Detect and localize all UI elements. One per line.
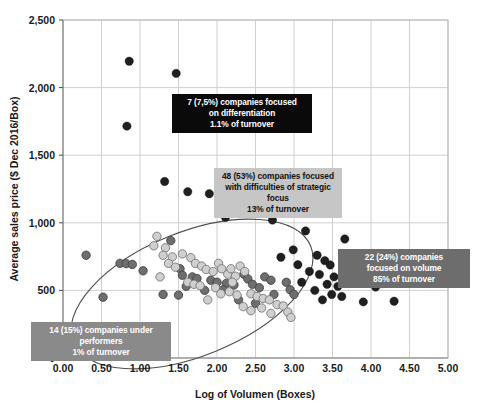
data-point-mid-cluster-light: [287, 313, 295, 321]
annotation-line: 48 (53%) companies focused: [219, 171, 337, 182]
data-point-mid-cluster-light: [247, 306, 255, 314]
data-point-differentiation-high-price: [160, 177, 168, 185]
data-point-volume-focused: [311, 286, 319, 294]
x-tick-label: 0.00: [53, 362, 74, 374]
annotation-strategic-focus: 48 (53%) companies focusedwith difficult…: [214, 168, 342, 218]
data-point-mid-cluster-light: [150, 242, 158, 250]
data-point-mid-cluster-light: [228, 278, 236, 286]
data-point-mid-cluster-light: [178, 250, 186, 258]
data-point-volume-focused: [359, 298, 367, 306]
y-tick-label: 1,000: [29, 217, 55, 229]
data-point-differentiation-high-price: [205, 190, 213, 198]
x-axis-title: Log of Volumen (Boxes): [195, 388, 315, 400]
data-point-mid-cluster-light: [233, 291, 241, 299]
annotation-line: 22 (24%) companies: [343, 252, 465, 263]
data-point-strategic-focus-difficulties: [82, 251, 90, 259]
data-point-volume-focused: [294, 261, 302, 269]
data-point-strategic-focus-difficulties: [267, 276, 275, 284]
data-point-strategic-focus-difficulties: [178, 271, 186, 279]
x-tick-label: 2.50: [245, 362, 266, 374]
data-point-mid-cluster-light: [241, 267, 249, 275]
annotation-volume: 22 (24%) companiesfocused on volume85% o…: [338, 249, 470, 288]
data-point-volume-focused: [323, 280, 331, 288]
data-point-volume-focused: [341, 235, 349, 243]
annotation-line: on differentiation: [177, 108, 307, 119]
x-axis-tick-labels: 0.000.501.001.502.002.503.003.504.004.50…: [53, 362, 459, 374]
annotation-line: 13% of turnover: [219, 204, 337, 215]
x-tick-label: 4.50: [399, 362, 420, 374]
annotation-line: with difficulties of strategic: [219, 182, 337, 193]
x-tick-label: 2.00: [207, 362, 228, 374]
x-tick-label: 3.50: [322, 362, 343, 374]
data-point-differentiation-high-price: [184, 188, 192, 196]
annotation-differentiation: 7 (7,5%) companies focusedon differentia…: [172, 94, 312, 133]
x-tick-label: 3.00: [284, 362, 305, 374]
data-point-strategic-focus-difficulties: [167, 236, 175, 244]
data-point-volume-focused: [326, 261, 334, 269]
data-point-mid-cluster-light: [239, 302, 247, 310]
data-point-strategic-focus-difficulties: [255, 283, 263, 291]
annotation-under-performers: 14 (15%) companies underperformers1% of …: [31, 322, 171, 361]
data-point-mid-cluster-light: [153, 232, 161, 240]
annotation-line: focused on volume: [343, 263, 465, 274]
data-point-volume-focused: [313, 251, 321, 259]
data-point-mid-cluster-light: [225, 288, 233, 296]
y-tick-label: 500: [37, 284, 55, 296]
annotation-line: 85% of turnover: [343, 274, 465, 285]
y-tick-label: 1,500: [29, 149, 55, 161]
x-tick-label: 5.00: [438, 362, 459, 374]
data-point-volume-focused: [315, 270, 323, 278]
x-tick-label: 4.00: [361, 362, 382, 374]
data-point-mid-cluster-light: [209, 267, 217, 275]
annotation-line: 1.1% of turnover: [177, 119, 307, 130]
data-point-mid-cluster-light: [257, 304, 265, 312]
x-tick-label: 0.50: [91, 362, 112, 374]
y-tick-label: 2,500: [29, 14, 55, 26]
annotation-line: 1% of turnover: [36, 347, 166, 358]
data-point-volume-focused: [330, 273, 338, 281]
data-point-differentiation-high-price: [123, 122, 131, 130]
data-point-volume-focused: [301, 227, 309, 235]
data-point-volume-focused: [277, 253, 285, 261]
data-point-volume-focused: [318, 296, 326, 304]
data-point-mid-cluster-light: [267, 309, 275, 317]
x-tick-label: 1.50: [168, 362, 189, 374]
data-point-mid-cluster-light: [265, 296, 273, 304]
data-point-volume-focused: [305, 267, 313, 275]
data-point-volume-focused: [390, 297, 398, 305]
data-point-mid-cluster-light: [204, 296, 212, 304]
y-tick-label: 2,000: [29, 82, 55, 94]
annotation-line: focus: [219, 193, 337, 204]
data-point-mid-cluster-light: [171, 263, 179, 271]
data-point-mid-cluster-light: [196, 281, 204, 289]
data-point-mid-cluster-light: [159, 251, 167, 259]
data-point-strategic-focus-difficulties: [290, 290, 298, 298]
data-point-differentiation-high-price: [125, 57, 133, 65]
data-point-volume-focused: [328, 290, 336, 298]
y-axis-tick-labels: 05001,0001,5002,0002,500: [29, 14, 55, 364]
data-point-mid-cluster-light: [217, 290, 225, 298]
annotation-line: performers: [36, 336, 166, 347]
annotation-line: 7 (7,5%) companies focused: [177, 97, 307, 108]
data-point-strategic-focus-difficulties: [99, 293, 107, 301]
data-point-differentiation-high-price: [172, 69, 180, 77]
footer-strip: [0, 404, 477, 415]
data-point-volume-focused: [298, 278, 306, 286]
x-tick-label: 1.00: [130, 362, 151, 374]
data-point-volume-focused: [289, 246, 297, 254]
annotation-line: 14 (15%) companies under: [36, 325, 166, 336]
y-axis-title: Average sales price ($ Dec 2016/Box): [8, 96, 20, 281]
data-point-strategic-focus-difficulties: [159, 290, 167, 298]
data-point-strategic-focus-difficulties: [139, 267, 147, 275]
scatter-chart: 0.000.501.001.502.002.503.003.504.004.50…: [0, 0, 477, 415]
data-point-mid-cluster-light: [156, 273, 164, 281]
data-point-mid-cluster-light: [227, 265, 235, 273]
data-point-strategic-focus-difficulties: [174, 291, 182, 299]
data-point-volume-focused: [338, 292, 346, 300]
data-point-strategic-focus-difficulties: [128, 260, 136, 268]
